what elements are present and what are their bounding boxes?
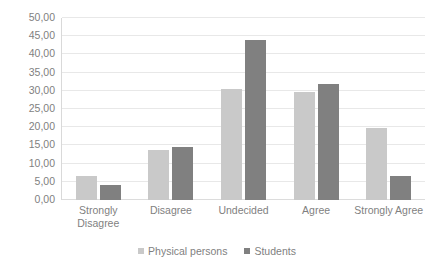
y-axis-tick-label: 5,00 bbox=[35, 176, 55, 187]
legend-label: Physical persons bbox=[148, 246, 227, 257]
y-axis-tick-label: 10,00 bbox=[29, 157, 55, 168]
x-axis-labels: Strongly DisagreeDisagreeUndecidedAgreeS… bbox=[62, 204, 425, 230]
bars-layer bbox=[62, 18, 425, 200]
bar-chart: 0,005,0010,0015,0020,0025,0030,0035,0040… bbox=[0, 0, 434, 272]
bar-group bbox=[280, 18, 353, 200]
y-axis-tick-label: 15,00 bbox=[29, 139, 55, 150]
bar bbox=[366, 128, 387, 200]
y-axis-tick-label: 40,00 bbox=[29, 48, 55, 59]
legend-label: Students bbox=[254, 246, 295, 257]
plot-area: 0,005,0010,0015,0020,0025,0030,0035,0040… bbox=[62, 18, 425, 200]
bar bbox=[221, 89, 242, 200]
bar-group bbox=[207, 18, 280, 200]
bar bbox=[245, 40, 266, 200]
y-axis-tick-label: 25,00 bbox=[29, 103, 55, 114]
y-axis-tick-label: 35,00 bbox=[29, 66, 55, 77]
chart-legend: Physical personsStudents bbox=[0, 246, 434, 257]
bar bbox=[390, 176, 411, 200]
x-axis-tick-label: Strongly Agree bbox=[352, 204, 425, 230]
legend-swatch-icon bbox=[244, 248, 250, 254]
legend-item[interactable]: Students bbox=[244, 246, 295, 257]
x-axis-tick-label: Undecided bbox=[207, 204, 280, 230]
bar-group bbox=[352, 18, 425, 200]
bar bbox=[148, 150, 169, 200]
bar-group bbox=[62, 18, 135, 200]
legend-item[interactable]: Physical persons bbox=[138, 246, 227, 257]
y-axis-tick-label: 30,00 bbox=[29, 85, 55, 96]
y-axis-tick-label: 20,00 bbox=[29, 121, 55, 132]
bar bbox=[100, 185, 121, 200]
x-axis-tick-label: Disagree bbox=[135, 204, 208, 230]
legend-swatch-icon bbox=[138, 248, 144, 254]
bar bbox=[172, 147, 193, 200]
x-axis-tick-label: Agree bbox=[280, 204, 353, 230]
x-axis-tick-label: Strongly Disagree bbox=[62, 204, 135, 230]
bar bbox=[294, 92, 315, 200]
y-axis-tick-label: 50,00 bbox=[29, 12, 55, 23]
bar-group bbox=[135, 18, 208, 200]
bar bbox=[318, 84, 339, 200]
y-axis-tick-label: 0,00 bbox=[35, 194, 55, 205]
y-axis-tick-label: 45,00 bbox=[29, 30, 55, 41]
bar bbox=[76, 176, 97, 200]
